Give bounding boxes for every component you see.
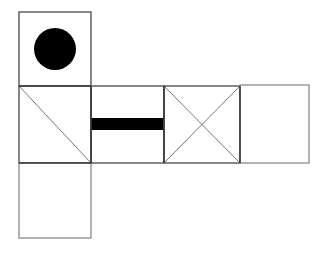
panel-right-rectangle-plain (240, 85, 309, 163)
panel-middle-left-square-with-diagonal (19, 86, 91, 163)
panel-bottom-left-square-plain (19, 163, 91, 238)
horizontal-black-bar-marking (91, 118, 164, 130)
panel-net-figure (0, 0, 328, 253)
panel-middle-square-with-x-cross (164, 86, 240, 163)
diagram-canvas (0, 0, 328, 253)
panel-outline-bottom-left-square (19, 163, 91, 238)
panel-outline-right-rectangle (240, 85, 309, 163)
panel-middle-rectangle-with-black-bar (91, 86, 164, 163)
panel-top-square-with-circle (19, 12, 91, 86)
filled-circle-marking (34, 28, 76, 70)
